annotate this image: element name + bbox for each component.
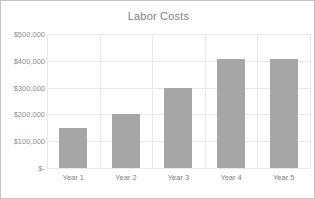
- x-axis-tick-label: Year 4: [220, 173, 241, 182]
- y-axis-tick-label: $200,000: [1, 110, 45, 119]
- bar[interactable]: [59, 128, 87, 168]
- bar[interactable]: [270, 59, 298, 168]
- y-axis-tick-label: $400,000: [1, 56, 45, 65]
- plot-area: [47, 34, 310, 168]
- bar-slot: [152, 34, 205, 168]
- bar-slot: [100, 34, 153, 168]
- chart-title: Labor Costs: [1, 10, 315, 22]
- x-axis-tick-label: Year 2: [115, 173, 136, 182]
- bar-slot: [47, 34, 100, 168]
- x-axis-tick-label: Year 1: [63, 173, 84, 182]
- y-axis-tick-label: $300,000: [1, 83, 45, 92]
- y-axis-tick-label: $500,000: [1, 30, 45, 39]
- y-axis: $-$100,000$200,000$300,000$400,000$500,0…: [1, 34, 45, 168]
- horizontal-gridline: [47, 168, 310, 169]
- vertical-gridline: [310, 34, 311, 168]
- x-axis-tick-label: Year 3: [168, 173, 189, 182]
- chart-container: Labor Costs $-$100,000$200,000$300,000$4…: [0, 0, 315, 199]
- y-axis-tick-label: $-: [1, 164, 45, 173]
- bar[interactable]: [112, 114, 140, 168]
- bar-slot: [257, 34, 310, 168]
- bar[interactable]: [217, 59, 245, 168]
- y-axis-tick-label: $100,000: [1, 137, 45, 146]
- x-axis-tick-label: Year 5: [273, 173, 294, 182]
- bar-slot: [205, 34, 258, 168]
- bar[interactable]: [164, 88, 192, 168]
